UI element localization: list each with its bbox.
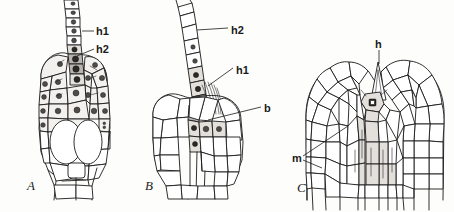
panel-a-filament-h1 [64,0,82,54]
panel-a-central-cells [68,54,85,85]
label-c-h: h [375,38,382,50]
label-b-h1: h1 [236,64,249,76]
label-a-h1: h1 [96,25,109,37]
figure-container: .o{fill:none;stroke:#1a1a1a;stroke-width… [0,0,454,212]
label-b-b: b [264,102,271,114]
figure-svg: .o{fill:none;stroke:#1a1a1a;stroke-width… [0,0,454,212]
label-a-h2: h2 [96,43,109,55]
panel-letter-b: B [145,178,153,193]
panel-letter-c: C [297,180,306,195]
label-c-m: m [292,152,302,164]
label-b-h2: h2 [231,24,244,36]
panel-letter-a: A [26,178,35,193]
